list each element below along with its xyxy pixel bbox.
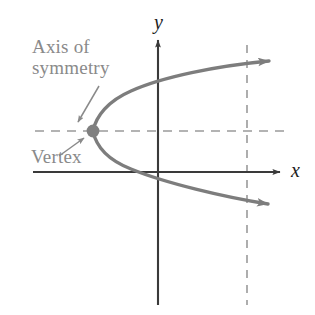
vertex-point-marker [87,125,100,138]
axis-of-symmetry-label: Axis of symmetry [32,36,110,78]
y-axis-label: y [154,12,163,32]
parabola-lower-branch [93,131,268,204]
x-axis-label: x [291,160,300,180]
vertex-label: Vertex [31,146,82,167]
parabola-upper-branch [93,61,269,131]
parabola-figure: Axis of symmetry Vertex y x [0,0,315,315]
axis-of-symmetry-leader-arrow [78,86,99,122]
